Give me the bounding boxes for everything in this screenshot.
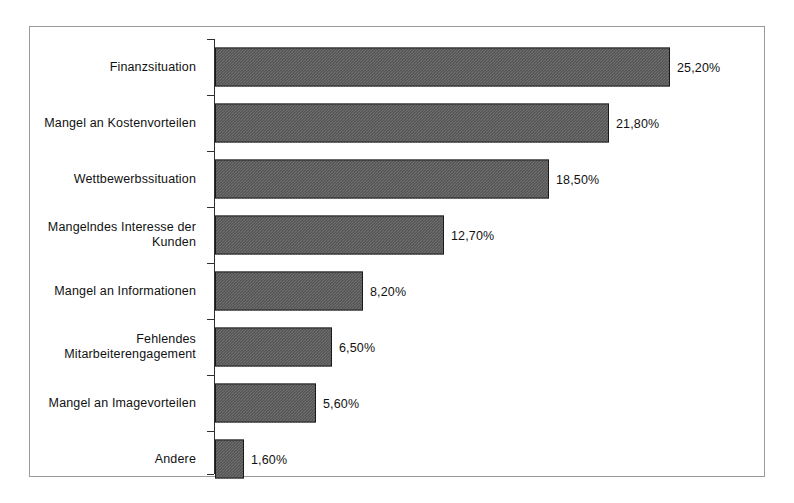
bar[interactable] [215, 48, 670, 87]
bar-value-label: 8,20% [370, 284, 406, 298]
axis-tick [207, 431, 214, 432]
category-label: Andere [0, 452, 196, 467]
category-label: Fehlendes Mitarbeiterengagement [0, 332, 196, 362]
bar-value-label: 21,80% [616, 116, 659, 130]
bar[interactable] [215, 328, 332, 367]
bar[interactable] [215, 384, 316, 423]
category-label: Mangelndes Interesse der Kunden [0, 220, 196, 250]
bar-group: 21,80% [215, 104, 659, 143]
chart-row: Mangel an Imagevorteilen 5,60% [30, 375, 764, 431]
bar-value-label: 6,50% [339, 340, 375, 354]
bar[interactable] [215, 104, 609, 143]
chart-row: Mangelndes Interesse der Kunden 12,70% [30, 207, 764, 263]
axis-tick [207, 207, 214, 208]
category-label: Mangel an Imagevorteilen [0, 396, 196, 411]
category-label: Wettbewerbssituation [0, 172, 196, 187]
axis-tick [207, 319, 214, 320]
bar-group: 18,50% [215, 160, 599, 199]
bar-value-label: 12,70% [451, 228, 494, 242]
axis-tick [207, 474, 214, 475]
bar[interactable] [215, 160, 549, 199]
chart-row: Mangel an Informationen 8,20% [30, 263, 764, 319]
chart-row: Wettbewerbssituation 18,50% [30, 151, 764, 207]
chart-frame: Finanzsituation 25,20% Mangel an Kostenv… [29, 26, 765, 477]
bar-value-label: 25,20% [677, 60, 720, 74]
bar-group: 8,20% [215, 272, 406, 311]
bar-group: 6,50% [215, 328, 375, 367]
bar[interactable] [215, 272, 363, 311]
bar-group: 12,70% [215, 216, 494, 255]
chart-row: Andere 1,60% [30, 431, 764, 487]
bar-value-label: 18,50% [556, 172, 599, 186]
bar[interactable] [215, 216, 444, 255]
axis-tick [207, 263, 214, 264]
chart-row: Mangel an Kostenvorteilen 21,80% [30, 95, 764, 151]
chart-plot-area: Finanzsituation 25,20% Mangel an Kostenv… [30, 27, 764, 476]
category-label: Finanzsituation [0, 60, 196, 75]
chart-row: Finanzsituation 25,20% [30, 39, 764, 95]
bar-group: 1,60% [215, 440, 287, 479]
axis-tick [207, 151, 214, 152]
axis-tick [207, 39, 214, 40]
axis-tick [207, 375, 214, 376]
bar-group: 25,20% [215, 48, 720, 87]
bar-value-label: 5,60% [323, 396, 359, 410]
category-label: Mangel an Kostenvorteilen [0, 116, 196, 131]
bar[interactable] [215, 440, 244, 479]
axis-tick [207, 95, 214, 96]
chart-row: Fehlendes Mitarbeiterengagement 6,50% [30, 319, 764, 375]
bar-group: 5,60% [215, 384, 359, 423]
category-label: Mangel an Informationen [0, 284, 196, 299]
bar-value-label: 1,60% [251, 452, 287, 466]
